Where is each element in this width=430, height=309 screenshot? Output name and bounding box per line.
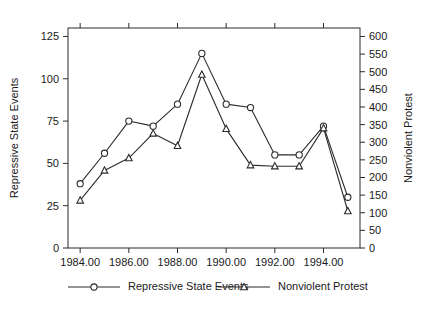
y-axis-left-tick-label: 50 [47,157,59,169]
series-line [80,53,348,197]
y-axis-right-tick-label: 250 [369,154,387,166]
y-axis-right-title: Nonviolent Protest [402,93,414,183]
data-point-circle [174,101,180,107]
y-axis-left: 0255075100125 [41,30,68,254]
data-point-circle [150,123,156,129]
data-point-triangle [101,167,108,173]
x-axis: 1984.001986.001988.001990.001992.001994.… [60,23,343,268]
y-axis-right-tick-label: 550 [369,48,387,60]
y-axis-right-tick-label: 100 [369,207,387,219]
y-axis-left-tick-label: 0 [53,242,59,254]
y-axis-left-tick-label: 100 [41,73,59,85]
chart-container: 0255075100125050100150200250300350400450… [0,0,430,309]
y-axis-right-tick-label: 0 [369,242,375,254]
data-point-triangle [223,125,230,131]
data-point-circle [345,194,351,200]
data-point-triangle [150,130,157,136]
y-axis-left-tick-label: 125 [41,30,59,42]
data-point-triangle [199,71,206,77]
data-point-circle [223,101,229,107]
plot-frame [68,28,360,248]
data-point-circle [126,118,132,124]
y-axis-right-tick-label: 200 [369,171,387,183]
legend: Repressive State EventsNonviolent Protes… [68,280,368,292]
y-axis-right-tick-label: 150 [369,189,387,201]
y-axis-right-tick-label: 600 [369,30,387,42]
legend-marker-circle [91,284,97,290]
data-point-circle [101,150,107,156]
y-axis-right-tick-label: 350 [369,119,387,131]
data-point-circle [272,152,278,158]
line-chart: 0255075100125050100150200250300350400450… [0,0,430,309]
data-point-triangle [174,142,181,148]
y-axis-left-title: Repressive State Events [8,77,20,198]
x-axis-tick-label: 1988.00 [158,256,198,268]
x-axis-tick-label: 1984.00 [60,256,100,268]
data-point-circle [247,104,253,110]
y-axis-right-tick-label: 50 [369,224,381,236]
data-point-triangle [345,207,352,213]
y-axis-right-tick-label: 300 [369,136,387,148]
y-axis-left-tick-label: 75 [47,115,59,127]
y-axis-right-tick-label: 400 [369,101,387,113]
y-axis-right: 050100150200250300350400450500550600 [360,30,387,254]
x-axis-tick-label: 1994.00 [304,256,344,268]
y-axis-right-tick-label: 450 [369,83,387,95]
x-axis-tick-label: 1986.00 [109,256,149,268]
legend-label-1: Repressive State Events [128,280,249,292]
data-point-circle [296,152,302,158]
x-axis-tick-label: 1992.00 [255,256,295,268]
x-axis-tick-label: 1990.00 [206,256,246,268]
series-line [80,75,348,211]
series-1 [77,50,351,200]
data-point-circle [77,181,83,187]
y-axis-right-tick-label: 500 [369,66,387,78]
y-axis-left-tick-label: 25 [47,200,59,212]
data-point-circle [199,50,205,56]
legend-label-2: Nonviolent Protest [278,280,368,292]
